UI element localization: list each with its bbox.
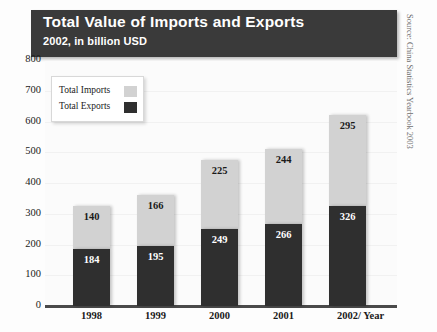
y-axis-tick-label: 200 (25, 238, 41, 249)
bar-value-exports: 184 (73, 254, 110, 265)
x-axis-tick-label: 2001 (254, 310, 314, 321)
y-axis-tick-label: 100 (25, 268, 41, 279)
chart-figure: Total Value of Imports and Exports 2002,… (0, 0, 437, 332)
bar-value-exports: 195 (137, 251, 174, 262)
bar-value-imports: 295 (329, 120, 366, 131)
x-axis-tick-label: 2002 (318, 310, 378, 321)
bar-segment-imports: 225 (201, 160, 238, 229)
y-axis-tick-label: 700 (25, 84, 41, 95)
bar-segment-imports: 140 (73, 206, 110, 249)
bar-segment-imports: 295 (329, 115, 366, 206)
y-axis-tick-label: 300 (25, 207, 41, 218)
bar-segment-exports: 184 (73, 249, 110, 306)
legend-label-imports: Total Imports (59, 85, 110, 95)
x-axis-tick-label: 1999 (126, 310, 186, 321)
bar-segment-exports: 195 (137, 246, 174, 306)
legend-item-imports: Total Imports (59, 85, 137, 99)
bar-value-exports: 249 (201, 234, 238, 245)
bar-group: 166195 (137, 195, 174, 306)
bar-group: 140184 (73, 206, 110, 306)
chart-legend: Total Imports Total Exports (51, 76, 144, 122)
bar-group: 225249 (201, 160, 238, 306)
y-axis-tick-label: 0 (36, 299, 41, 310)
y-axis-tick-label: 800 (25, 53, 41, 64)
legend-label-exports: Total Exports (59, 101, 110, 111)
x-axis-tick-label: 1998 (62, 310, 122, 321)
bar-value-imports: 225 (201, 165, 238, 176)
y-axis-tick-label: 600 (25, 115, 41, 126)
bar-segment-exports: 326 (329, 206, 366, 306)
legend-swatch-imports-icon (124, 86, 137, 97)
legend-swatch-exports-icon (124, 102, 137, 113)
bar-segment-imports: 166 (137, 195, 174, 246)
bar-value-exports: 266 (265, 229, 302, 240)
bar-group: 244266 (265, 149, 302, 306)
bar-group: 295326 (329, 115, 366, 306)
bar-value-imports: 140 (73, 211, 110, 222)
chart-title: Total Value of Imports and Exports (43, 13, 304, 31)
x-axis-tick-label: 2000 (190, 310, 250, 321)
bar-value-imports: 166 (137, 200, 174, 211)
y-axis: 0100200300400500600700800 (0, 0, 41, 332)
bar-segment-exports: 249 (201, 229, 238, 306)
legend-item-exports: Total Exports (59, 101, 137, 115)
bar-value-exports: 326 (329, 211, 366, 222)
bar-segment-exports: 266 (265, 224, 302, 306)
bar-segment-imports: 244 (265, 149, 302, 224)
y-axis-tick-label: 400 (25, 176, 41, 187)
bar-value-imports: 244 (265, 154, 302, 165)
gridline (45, 60, 397, 61)
y-axis-tick-label: 500 (25, 145, 41, 156)
chart-subtitle: 2002, in billion USD (43, 35, 147, 47)
chart-header-banner: Total Value of Imports and Exports 2002,… (31, 10, 397, 57)
source-note: Source: China Statistics Yearbook 2003 (405, 14, 415, 149)
